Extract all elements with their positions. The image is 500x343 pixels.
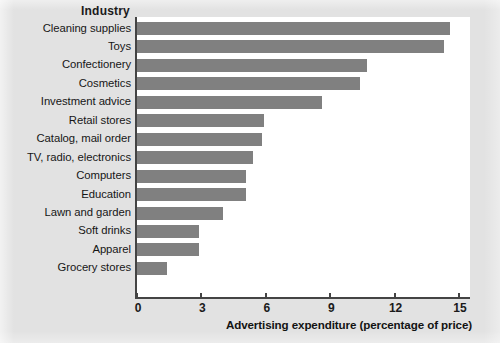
bar: [137, 262, 167, 275]
bar-row: Confectionery: [0, 56, 500, 74]
bar-category-label: Toys: [0, 40, 131, 52]
x-axis-title: Advertising expenditure (percentage of p…: [0, 318, 472, 331]
bar: [137, 77, 360, 90]
x-tick-label: 0: [118, 301, 158, 315]
bar-category-label: Cosmetics: [0, 77, 131, 89]
bar: [137, 207, 223, 220]
bar: [137, 225, 199, 238]
bar-category-label: Investment advice: [0, 95, 131, 107]
bar: [137, 170, 246, 183]
bar-category-label: Apparel: [0, 243, 131, 255]
bar-row: Apparel: [0, 241, 500, 259]
bar: [137, 40, 444, 53]
bar-category-label: Catalog, mail order: [0, 132, 131, 144]
x-tick-label: 15: [440, 301, 480, 315]
bar: [137, 22, 450, 35]
bar-row: Catalog, mail order: [0, 130, 500, 148]
x-tick-mark: [265, 293, 267, 299]
bar-category-label: Soft drinks: [0, 224, 131, 236]
chart-figure: Industry Cleaning suppliesToysConfection…: [0, 0, 500, 343]
bar-category-label: Confectionery: [0, 58, 131, 70]
x-axis-line: [135, 297, 470, 299]
bar-category-label: Lawn and garden: [0, 206, 131, 218]
x-tick-label: 9: [311, 301, 351, 315]
bar-row: TV, radio, electronics: [0, 149, 500, 167]
bar: [137, 133, 262, 146]
x-tick-label: 3: [182, 301, 222, 315]
x-tick-mark: [394, 293, 396, 299]
bar-row: Cosmetics: [0, 75, 500, 93]
bar: [137, 151, 253, 164]
bar-row: Computers: [0, 167, 500, 185]
bar-row: Cleaning supplies: [0, 20, 500, 38]
bar-row: Grocery stores: [0, 259, 500, 277]
bar-row: Soft drinks: [0, 222, 500, 240]
x-tick-mark: [200, 293, 202, 299]
x-tick-mark: [458, 293, 460, 299]
x-tick-label: 6: [247, 301, 287, 315]
bar-category-label: Cleaning supplies: [0, 22, 131, 34]
category-axis-header: Industry: [0, 4, 130, 18]
bar-category-label: Education: [0, 188, 131, 200]
bar-category-label: TV, radio, electronics: [0, 151, 131, 163]
bar: [137, 59, 367, 72]
bar: [137, 114, 264, 127]
bar-row: Toys: [0, 38, 500, 56]
x-tick-mark: [329, 293, 331, 299]
bar-category-label: Grocery stores: [0, 261, 131, 273]
x-tick-label: 12: [376, 301, 416, 315]
bar: [137, 96, 322, 109]
bar-row: Lawn and garden: [0, 204, 500, 222]
bar-category-label: Computers: [0, 169, 131, 181]
bar: [137, 243, 199, 256]
bar-row: Retail stores: [0, 112, 500, 130]
bar-category-label: Retail stores: [0, 114, 131, 126]
bar-row: Investment advice: [0, 93, 500, 111]
x-tick-mark: [136, 293, 138, 299]
bar: [137, 188, 246, 201]
bar-row: Education: [0, 186, 500, 204]
